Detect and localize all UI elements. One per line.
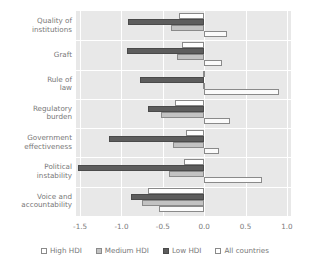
category-label: Graft	[0, 51, 72, 60]
x-axis: -1.5-1.0-0.50.00.51.0	[76, 216, 291, 232]
category-label-line: effectiveness	[0, 143, 72, 152]
bar-all	[204, 118, 230, 124]
bar-low	[128, 19, 204, 25]
category-label-line: instability	[0, 172, 72, 181]
bar-group	[76, 187, 291, 216]
bar-high	[186, 130, 204, 136]
bar-high	[148, 188, 204, 194]
x-axis-tick-label: 0.5	[240, 222, 251, 231]
bar-medium	[142, 200, 204, 206]
legend-swatch-icon	[41, 248, 47, 254]
legend-item-medium[interactable]: Medium HDI	[96, 246, 149, 255]
bar-group	[76, 157, 291, 186]
bar-group	[76, 11, 291, 40]
x-axis-tick-label: -1.5	[73, 222, 87, 231]
category-label-line: Graft	[0, 51, 72, 60]
legend-label: Medium HDI	[105, 246, 149, 255]
legend-label: All countries	[224, 246, 269, 255]
plot-area	[76, 11, 291, 216]
chart-legend: High HDIMedium HDILow HDIAll countries	[0, 246, 310, 255]
bar-low	[109, 136, 204, 142]
category-label-line: institutions	[0, 26, 72, 35]
bar-group	[76, 40, 291, 69]
bar-medium	[171, 25, 204, 31]
legend-swatch-icon	[215, 248, 221, 254]
category-label-line: law	[0, 84, 72, 93]
legend-label: Low HDI	[172, 246, 202, 255]
bar-all	[204, 177, 262, 183]
category-label: Regulatoryburden	[0, 105, 72, 122]
legend-item-all[interactable]: All countries	[215, 246, 269, 255]
bar-high	[179, 13, 204, 19]
legend-swatch-icon	[163, 248, 169, 254]
category-label: Voice andaccountability	[0, 193, 72, 210]
bar-high	[175, 100, 204, 106]
bar-low	[131, 194, 204, 200]
category-label: Governmenteffectiveness	[0, 134, 72, 151]
bar-low	[148, 106, 204, 112]
category-label: Politicalinstability	[0, 163, 72, 180]
legend-item-high[interactable]: High HDI	[41, 246, 82, 255]
bar-high	[182, 42, 204, 48]
category-label: Rule oflaw	[0, 76, 72, 93]
bar-group	[76, 99, 291, 128]
bar-all	[204, 60, 222, 66]
category-label: Quality ofinstitutions	[0, 17, 72, 34]
bar-all	[204, 31, 227, 37]
bar-medium	[169, 171, 204, 177]
category-label-line: accountability	[0, 201, 72, 210]
legend-label: High HDI	[50, 246, 82, 255]
bar-medium	[161, 112, 204, 118]
bar-medium	[173, 142, 204, 148]
bar-medium	[177, 54, 204, 60]
bar-high	[184, 159, 204, 165]
x-axis-tick-label: -1.0	[114, 222, 128, 231]
bar-low	[140, 77, 205, 83]
bar-all	[159, 206, 204, 212]
bar-medium	[203, 83, 205, 89]
legend-swatch-icon	[96, 248, 102, 254]
bar-group	[76, 128, 291, 157]
x-axis-tick-label: -0.5	[156, 222, 170, 231]
bar-low	[127, 48, 204, 54]
category-label-line: burden	[0, 113, 72, 122]
bar-high	[203, 71, 205, 77]
bar-all	[204, 89, 278, 95]
legend-item-low[interactable]: Low HDI	[163, 246, 202, 255]
governance-indicators-bar-chart: Quality ofinstitutionsGraftRule oflawReg…	[0, 0, 310, 269]
bar-group	[76, 70, 291, 99]
bar-low	[78, 165, 204, 171]
x-axis-tick-label: 0.0	[198, 222, 209, 231]
x-axis-tick-label: 1.0	[281, 222, 292, 231]
bar-all	[204, 148, 219, 154]
